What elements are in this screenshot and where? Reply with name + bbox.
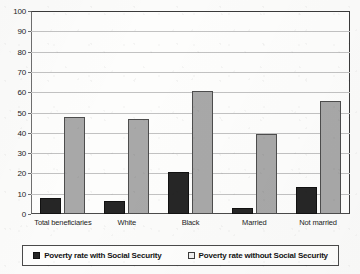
y-axis-tick-label: 100 [13,7,26,16]
dark-swatch-icon [33,252,40,259]
y-axis-tick-label: 50 [18,108,27,117]
bar [320,101,341,214]
plot-region: 0102030405060708090100 [31,11,350,214]
y-axis-tick-label: 30 [18,149,27,158]
legend-label: Poverty rate without Social Security [199,251,328,260]
y-axis-tick-label: 80 [18,47,27,56]
bar [296,187,317,214]
y-axis-tick-label: 40 [18,128,27,137]
x-axis-category-label: Married [242,218,266,227]
x-axis-category-label: Black [182,218,200,227]
y-axis-tick-label: 60 [18,88,27,97]
light-swatch-icon [188,252,195,259]
x-axis-category-label: Total beneficiaries [34,218,91,227]
legend-entry: Poverty rate with Social Security [33,251,161,260]
y-axis-tick-label: 90 [18,27,27,36]
legend-entry: Poverty rate without Social Security [188,251,328,260]
x-axis-category-label: Not married [299,218,337,227]
chart-legend: Poverty rate with Social SecurityPoverty… [22,245,339,266]
y-axis-tick-label: 20 [18,169,27,178]
y-axis-tick-label: 70 [18,67,27,76]
y-axis-tick-mark [28,214,31,215]
x-axis-category-label: White [117,218,135,227]
legend-label: Poverty rate with Social Security [44,251,161,260]
bar-group [31,11,350,214]
grouped-bar-chart: 0102030405060708090100 Total beneficiari… [0,0,360,274]
y-axis-tick-label: 10 [18,189,27,198]
y-axis-tick-label: 0 [22,210,26,219]
